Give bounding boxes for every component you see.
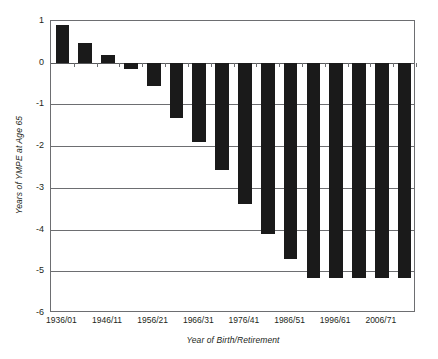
x-tick-mark (416, 63, 417, 67)
y-tick-label: -4 (2, 224, 44, 234)
x-tick-label: 2006/71 (365, 315, 396, 325)
bar (352, 63, 366, 278)
x-tick-mark (279, 63, 280, 67)
y-tick-label: -5 (2, 265, 44, 275)
bar (261, 63, 275, 234)
x-tick-mark (234, 63, 235, 67)
bar (124, 63, 138, 69)
y-tick-label: 0 (2, 57, 44, 67)
y-tick-label: 1 (2, 15, 44, 25)
x-tick-label: 1936/01 (46, 315, 77, 325)
bar (192, 63, 206, 142)
bar (284, 63, 298, 259)
bar (215, 63, 229, 171)
bar (170, 63, 184, 118)
x-tick-mark (393, 63, 394, 67)
x-tick-mark (97, 63, 98, 67)
bar (238, 63, 252, 204)
plot-area (50, 20, 415, 312)
x-axis-title: Year of Birth/Retirement (50, 335, 416, 345)
x-tick-mark (370, 63, 371, 67)
x-tick-label: 1956/21 (137, 315, 168, 325)
bar (329, 63, 343, 278)
x-tick-mark (211, 63, 212, 67)
bar (307, 63, 321, 278)
y-tick-label: -2 (2, 140, 44, 150)
bar (398, 63, 412, 278)
chart-container: Years of YMPE at Age 65 10-1-2-3-4-5-6 1… (0, 0, 438, 359)
x-tick-mark (302, 63, 303, 67)
x-tick-mark (142, 63, 143, 67)
x-axis-tick-labels: 1936/011946/111956/211966/311976/411986/… (0, 315, 438, 331)
x-tick-mark (348, 63, 349, 67)
x-tick-mark (188, 63, 189, 67)
x-tick-label: 1966/31 (183, 315, 214, 325)
bar (375, 63, 389, 278)
bar (101, 55, 115, 63)
x-tick-mark (74, 63, 75, 67)
x-tick-mark (119, 63, 120, 67)
bar (147, 63, 161, 86)
y-tick-label: -3 (2, 182, 44, 192)
x-tick-label: 1996/61 (320, 315, 351, 325)
y-axis-tick-labels: 10-1-2-3-4-5-6 (0, 20, 44, 312)
x-tick-mark (165, 63, 166, 67)
x-tick-label: 1946/11 (92, 315, 122, 325)
y-tick-label: -1 (2, 98, 44, 108)
x-tick-mark (325, 63, 326, 67)
x-tick-label: 1976/41 (229, 315, 260, 325)
x-tick-mark (256, 63, 257, 67)
x-tick-label: 1986/51 (274, 315, 305, 325)
bar (56, 25, 70, 63)
bar (78, 43, 92, 63)
